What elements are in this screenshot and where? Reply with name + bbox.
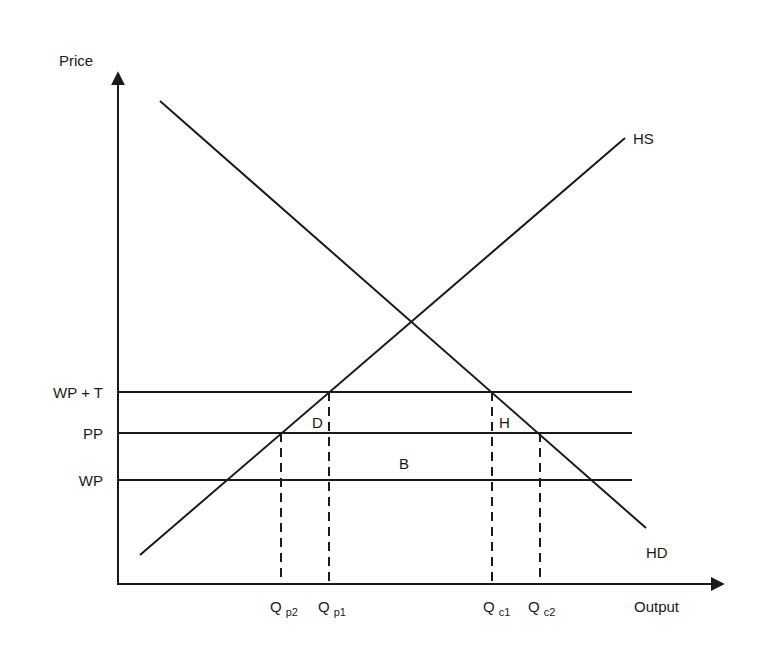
quantity-label-qc1: Qc1 [483, 598, 510, 618]
quantity-label-qc2: Qc2 [528, 598, 555, 618]
x-axis-label: Output [634, 598, 680, 615]
supply-curve-label: HS [633, 130, 654, 147]
quantity-label-qp2: Qp2 [270, 598, 298, 618]
price-label-wp-plus-t: WP + T [53, 384, 103, 401]
y-axis-label: Price [59, 52, 93, 69]
area-label-d: D [312, 414, 323, 431]
area-label-b: B [399, 455, 409, 472]
area-label-h: H [499, 414, 510, 431]
demand-curve-label: HD [646, 544, 668, 561]
quantity-label-qp1: Qp1 [318, 598, 346, 618]
price-label-wp: WP [79, 472, 103, 489]
price-label-pp: PP [83, 425, 103, 442]
tariff-diagram: Price Output HS HD WP + T PP WP Qp2 Qp1 … [0, 0, 765, 653]
home-supply-curve [140, 138, 625, 555]
